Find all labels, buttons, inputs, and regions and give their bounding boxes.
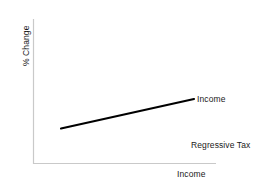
annotation-regressive-tax: Regressive Tax (191, 140, 250, 150)
series-label-income: Income (197, 94, 225, 104)
y-axis-label: % Change (10, 16, 24, 68)
chart-figure: % Change Income Regressive Tax Income (0, 0, 267, 185)
data-line-income (61, 99, 194, 129)
y-axis-label-text: % Change (21, 26, 31, 67)
chart-plot-area (0, 0, 267, 185)
x-axis-label: Income (177, 169, 205, 179)
